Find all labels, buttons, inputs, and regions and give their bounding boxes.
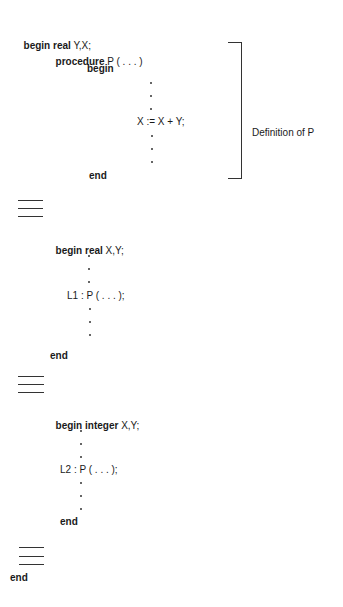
block2-begin-line: begin integer X,Y; bbox=[50, 408, 139, 432]
ellipsis-dot bbox=[151, 148, 153, 150]
ellipsis-dot bbox=[89, 334, 91, 336]
ellipsis-dot bbox=[80, 495, 82, 497]
block2-end: end bbox=[60, 516, 78, 528]
declared-vars: X,Y; bbox=[118, 420, 139, 431]
ellipsis-dot bbox=[150, 95, 152, 97]
procedure-end: end bbox=[89, 170, 107, 182]
ellipsis-dot bbox=[150, 82, 152, 84]
procedure-begin: begin bbox=[87, 63, 114, 75]
ellipsis-dot bbox=[89, 308, 91, 310]
omission-rule bbox=[19, 547, 44, 548]
omission-rule bbox=[18, 208, 43, 209]
bracket-top bbox=[228, 42, 242, 43]
ellipsis-dot bbox=[88, 281, 90, 283]
omission-rule bbox=[19, 556, 44, 557]
block1-call: L1 : P ( . . . ); bbox=[67, 290, 125, 302]
omission-rule bbox=[18, 392, 44, 393]
keyword-begin-real: begin real bbox=[56, 245, 103, 256]
ellipsis-dot bbox=[151, 161, 153, 163]
procedure-statement: X := X + Y; bbox=[137, 116, 185, 128]
bracket-vertical bbox=[241, 42, 242, 179]
ellipsis-dot bbox=[80, 430, 82, 432]
ellipsis-dot bbox=[150, 108, 152, 110]
declared-vars: X,Y; bbox=[103, 245, 124, 256]
ellipsis-dot bbox=[80, 482, 82, 484]
ellipsis-dot bbox=[80, 456, 82, 458]
omission-rule bbox=[18, 376, 44, 377]
keyword-begin-integer: begin integer bbox=[56, 420, 119, 431]
bracket-bottom bbox=[228, 178, 242, 179]
omission-rule bbox=[18, 216, 43, 217]
bracket-label: Definition of P bbox=[252, 127, 314, 139]
outer-end: end bbox=[10, 572, 28, 584]
ellipsis-dot bbox=[80, 508, 82, 510]
block1-end: end bbox=[50, 350, 68, 362]
omission-rule bbox=[18, 200, 43, 201]
ellipsis-dot bbox=[88, 255, 90, 257]
ellipsis-dot bbox=[89, 321, 91, 323]
ellipsis-dot bbox=[88, 268, 90, 270]
ellipsis-dot bbox=[151, 135, 153, 137]
omission-rule bbox=[18, 384, 44, 385]
ellipsis-dot bbox=[80, 443, 82, 445]
block2-call: L2 : P ( . . . ); bbox=[60, 464, 118, 476]
omission-rule bbox=[19, 564, 44, 565]
block1-begin-line: begin real X,Y; bbox=[50, 233, 124, 257]
